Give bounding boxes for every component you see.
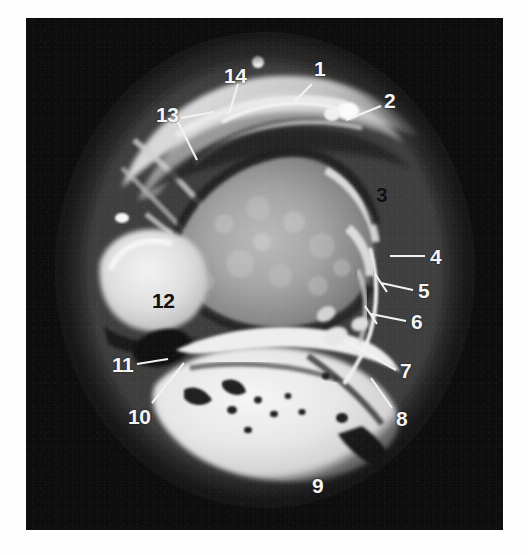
leader-line-layer — [26, 18, 503, 530]
label-2-leader — [346, 106, 381, 120]
label-1-leader — [294, 84, 312, 102]
label-4: 4 — [430, 246, 441, 267]
label-5: 5 — [418, 280, 429, 301]
label-7-leader — [344, 340, 396, 370]
label-9: 9 — [312, 475, 323, 496]
label-1: 1 — [314, 58, 325, 79]
label-2: 2 — [384, 90, 395, 111]
label-7: 7 — [400, 360, 411, 381]
scan-image-plate: 1234567891011121314 — [26, 18, 503, 530]
label-8-leader — [371, 378, 392, 408]
label-6-leader — [365, 306, 406, 324]
label-12: 12 — [152, 290, 174, 311]
label-11: 11 — [112, 354, 133, 375]
label-13: 13 — [156, 104, 178, 125]
label-3: 3 — [376, 184, 387, 205]
label-14-leader — [229, 84, 238, 114]
label-6: 6 — [411, 311, 422, 332]
label-10: 10 — [128, 406, 150, 427]
label-10-leader — [152, 363, 184, 403]
label-13-leader — [178, 112, 214, 160]
label-11-leader — [137, 359, 168, 364]
figure-page: 1234567891011121314 — [0, 0, 528, 555]
label-14: 14 — [224, 65, 246, 86]
label-5-leader — [375, 274, 413, 292]
label-8: 8 — [396, 408, 407, 429]
